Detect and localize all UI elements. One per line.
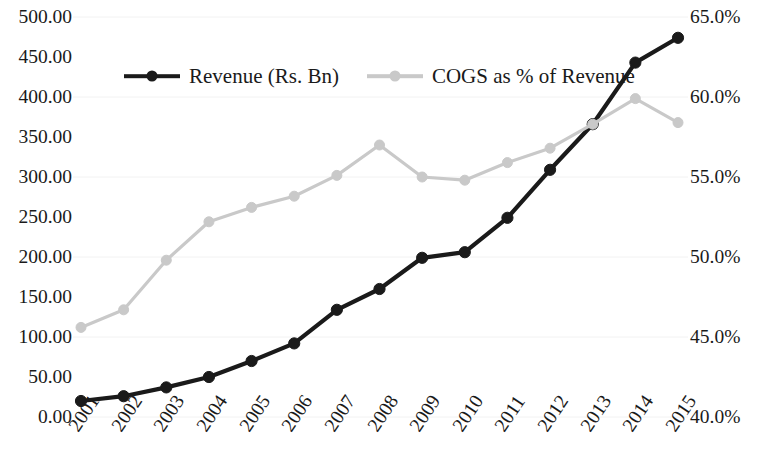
data-point <box>247 202 257 212</box>
data-point <box>161 382 172 393</box>
data-point <box>119 305 129 315</box>
data-point <box>502 212 513 223</box>
data-point <box>673 118 683 128</box>
data-point <box>203 371 214 382</box>
data-point <box>204 217 214 227</box>
chart-container: 0.0050.00100.00150.00200.00250.00300.003… <box>0 0 765 467</box>
chart-legend: Revenue (Rs. Bn)COGS as % of Revenue <box>124 61 635 91</box>
data-point <box>332 170 342 180</box>
y-axis-left-tick: 500.00 <box>18 7 72 27</box>
legend-marker-icon <box>389 71 400 82</box>
y-axis-left-tick: 0.00 <box>38 407 72 427</box>
data-point <box>289 338 300 349</box>
y-axis-left-tick: 350.00 <box>18 127 72 147</box>
legend-label: COGS as % of Revenue <box>432 64 635 89</box>
data-point <box>246 355 257 366</box>
y-axis-left-tick: 200.00 <box>18 247 72 267</box>
y-axis-left-tick: 150.00 <box>18 287 72 307</box>
legend-item[interactable]: COGS as % of Revenue <box>367 64 635 89</box>
data-point <box>460 175 470 185</box>
legend-item[interactable]: Revenue (Rs. Bn) <box>124 64 339 89</box>
legend-swatch-icon <box>367 68 423 84</box>
y-axis-right-tick: 50.0% <box>690 247 740 267</box>
data-point <box>630 94 640 104</box>
y-axis-left-tick: 450.00 <box>18 47 72 67</box>
y-axis-left-tick: 50.00 <box>28 367 72 387</box>
y-axis-left-tick: 400.00 <box>18 87 72 107</box>
data-point <box>417 252 428 263</box>
series-line <box>81 38 678 401</box>
data-point <box>672 32 683 43</box>
data-point <box>588 119 598 129</box>
data-point <box>375 140 385 150</box>
series-2 <box>76 94 683 333</box>
legend-label: Revenue (Rs. Bn) <box>189 64 339 89</box>
data-point <box>289 191 299 201</box>
y-axis-left: 0.0050.00100.00150.00200.00250.00300.003… <box>0 0 72 467</box>
y-axis-left-tick: 300.00 <box>18 167 72 187</box>
data-point <box>75 395 86 406</box>
y-axis-left-tick: 100.00 <box>18 327 72 347</box>
legend-swatch-icon <box>124 68 180 84</box>
y-axis-right-tick: 45.0% <box>690 327 740 347</box>
y-axis-right-tick: 65.0% <box>690 7 740 27</box>
data-point <box>544 164 555 175</box>
data-point <box>76 322 86 332</box>
y-axis-right-tick: 60.0% <box>690 87 740 107</box>
data-point <box>118 391 129 402</box>
y-axis-right-tick: 40.0% <box>690 407 740 427</box>
data-point <box>417 172 427 182</box>
data-point <box>459 247 470 258</box>
data-point <box>331 304 342 315</box>
data-point <box>545 143 555 153</box>
y-axis-right: 40.0%45.0%50.0%55.0%60.0%65.0% <box>690 0 765 467</box>
data-point <box>502 158 512 168</box>
y-axis-right-tick: 55.0% <box>690 167 740 187</box>
legend-marker-icon <box>147 71 158 82</box>
data-point <box>374 283 385 294</box>
data-point <box>161 255 171 265</box>
y-axis-left-tick: 250.00 <box>18 207 72 227</box>
